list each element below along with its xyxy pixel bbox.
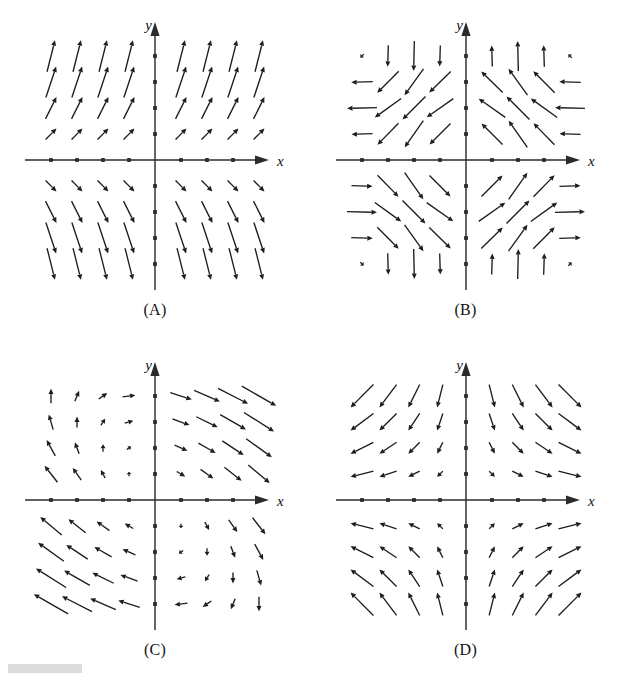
field-arrow-head bbox=[374, 112, 380, 117]
y-axis-tick bbox=[464, 184, 468, 188]
field-arrow-shaft bbox=[229, 248, 236, 274]
field-arrow-shaft bbox=[170, 393, 186, 398]
panel-caption-b: (B) bbox=[455, 302, 477, 318]
field-arrow-shaft bbox=[384, 471, 396, 475]
field-arrow-shaft bbox=[98, 201, 107, 218]
field-arrow-shaft bbox=[410, 385, 419, 403]
field-arrow-head bbox=[515, 41, 520, 46]
x-axis-tick bbox=[360, 498, 364, 502]
plot-c: xy bbox=[19, 354, 291, 636]
field-arrow-head bbox=[530, 99, 536, 104]
field-arrow-shaft bbox=[381, 71, 399, 89]
field-arrow-head bbox=[118, 600, 124, 605]
field-arrow-shaft bbox=[202, 102, 211, 119]
x-axis-label: x bbox=[587, 493, 595, 509]
y-axis-tick bbox=[153, 472, 157, 476]
field-arrow-shaft bbox=[46, 102, 55, 119]
x-axis-tick bbox=[179, 158, 183, 162]
field-arrow-shaft bbox=[43, 546, 64, 561]
field-arrow-shaft bbox=[558, 596, 577, 615]
x-axis-arrowhead bbox=[566, 495, 580, 504]
field-arrow-head bbox=[541, 45, 546, 50]
field-arrow-shaft bbox=[41, 571, 66, 587]
field-arrow-head bbox=[259, 274, 264, 280]
y-axis-tick bbox=[464, 394, 468, 398]
field-arrow-shaft bbox=[555, 212, 579, 213]
y-axis-tick bbox=[464, 576, 468, 580]
field-arrow-head bbox=[127, 472, 132, 475]
figure-root: xy (A) xy (B) xy (C) xy (D) bbox=[0, 0, 621, 679]
field-arrow-head bbox=[38, 543, 44, 548]
field-arrow-head bbox=[426, 112, 432, 117]
field-arrow-shaft bbox=[374, 203, 396, 219]
field-arrow-shaft bbox=[101, 422, 103, 425]
field-arrow-shaft bbox=[46, 201, 55, 218]
field-arrow-head bbox=[75, 417, 80, 422]
field-arrow-head bbox=[233, 274, 238, 280]
field-arrow-shaft bbox=[411, 413, 419, 426]
field-arrow-shaft bbox=[355, 549, 373, 558]
x-axis-label: x bbox=[276, 153, 284, 169]
x-axis-tick bbox=[568, 498, 572, 502]
field-arrow-shaft bbox=[402, 201, 421, 220]
field-arrow-head bbox=[49, 389, 54, 394]
y-axis-tick bbox=[153, 262, 157, 266]
field-arrow-head bbox=[447, 216, 453, 221]
field-arrow-shaft bbox=[72, 132, 79, 139]
field-arrow-head bbox=[233, 40, 238, 46]
field-arrow-shaft bbox=[127, 448, 129, 449]
x-axis-tick bbox=[386, 498, 390, 502]
field-arrow-shaft bbox=[512, 442, 520, 450]
field-arrow-shaft bbox=[98, 102, 107, 119]
vector-field-svg-a: xy bbox=[19, 14, 291, 296]
field-arrow-shaft bbox=[383, 442, 396, 450]
field-arrow-shaft bbox=[229, 520, 234, 528]
field-arrow-shaft bbox=[194, 390, 215, 399]
field-arrow-shaft bbox=[355, 471, 373, 475]
field-arrow-shaft bbox=[411, 574, 419, 587]
field-arrow-shaft bbox=[438, 413, 442, 425]
x-axis-tick bbox=[49, 498, 53, 502]
y-axis-tick bbox=[153, 602, 157, 606]
field-arrow-shaft bbox=[49, 445, 55, 456]
field-arrow-shaft bbox=[176, 102, 185, 119]
field-arrow-head bbox=[120, 574, 126, 579]
field-arrow-head bbox=[203, 602, 209, 607]
field-arrow-shaft bbox=[47, 45, 54, 71]
field-arrow-shaft bbox=[124, 201, 133, 218]
field-arrow-head bbox=[575, 183, 580, 188]
field-arrow-head bbox=[78, 248, 83, 254]
y-axis-tick bbox=[464, 550, 468, 554]
field-arrow-shaft bbox=[172, 419, 184, 423]
field-arrow-head bbox=[207, 40, 212, 46]
field-arrow-head bbox=[77, 274, 82, 280]
x-axis-tick bbox=[542, 158, 546, 162]
field-arrow-head bbox=[130, 248, 135, 254]
field-arrow-shaft bbox=[228, 223, 237, 249]
field-arrow-shaft bbox=[69, 573, 90, 585]
field-arrow-shaft bbox=[207, 601, 211, 604]
field-arrow-shaft bbox=[570, 56, 571, 57]
x-axis-tick bbox=[101, 158, 105, 162]
field-arrow-shaft bbox=[98, 223, 107, 249]
field-arrow-head bbox=[350, 522, 356, 527]
field-arrow-shaft bbox=[433, 71, 451, 88]
field-arrow-shaft bbox=[512, 526, 519, 529]
field-arrow-head bbox=[77, 40, 82, 46]
y-axis-tick bbox=[153, 420, 157, 424]
field-arrow-head bbox=[234, 248, 239, 254]
field-arrow-head bbox=[436, 593, 441, 599]
field-arrow-shaft bbox=[181, 550, 183, 551]
field-arrow-shaft bbox=[202, 201, 211, 218]
field-arrow-shaft bbox=[254, 132, 261, 139]
panel-c: xy (C) bbox=[0, 340, 310, 679]
field-arrow-shaft bbox=[67, 599, 92, 612]
field-arrow-shaft bbox=[47, 248, 54, 274]
axes-group: xy bbox=[25, 357, 284, 630]
field-arrow-shaft bbox=[433, 123, 450, 140]
field-arrow-shaft bbox=[254, 181, 261, 188]
field-arrow-head bbox=[51, 40, 56, 46]
x-axis-label: x bbox=[587, 153, 595, 169]
x-axis-label: x bbox=[276, 493, 284, 509]
field-arrow-head bbox=[551, 203, 557, 208]
